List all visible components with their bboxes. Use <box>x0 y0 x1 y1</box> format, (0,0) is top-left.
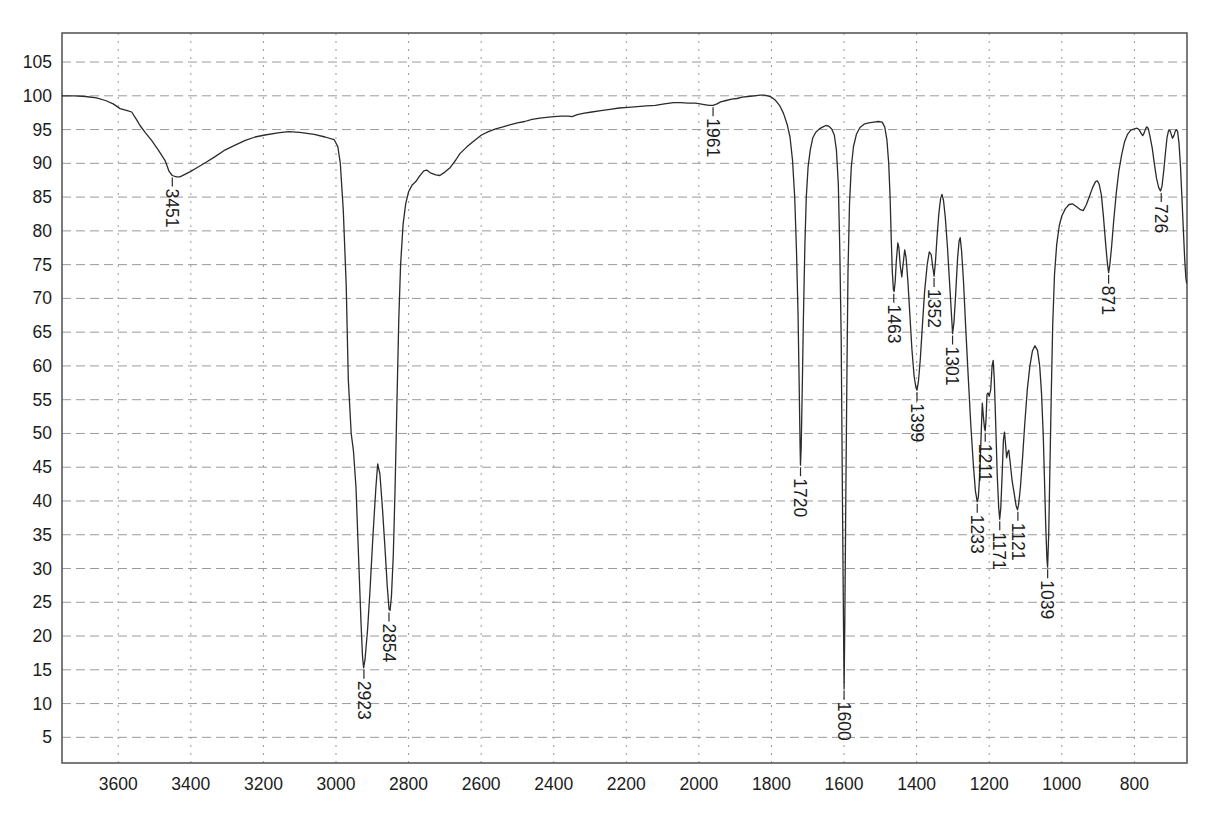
x-axis-label-2000: 2000 <box>679 774 718 794</box>
peak-label-1463: 1463 <box>884 305 904 344</box>
y-axis-label-45: 45 <box>33 457 52 477</box>
x-axis-label-1200: 1200 <box>970 774 1009 794</box>
x-axis-label-2800: 2800 <box>389 774 428 794</box>
x-axis-label-2200: 2200 <box>607 774 646 794</box>
scanned-ir-spectrum-page: 1051009590858075706560555045403530252015… <box>0 0 1218 823</box>
peak-label-1720: 1720 <box>790 478 810 517</box>
x-axis-label-3200: 3200 <box>244 774 283 794</box>
y-axis-label-70: 70 <box>33 288 53 308</box>
spectrum-curve <box>62 95 1187 689</box>
y-axis-label-85: 85 <box>33 187 52 207</box>
peak-label-1600: 1600 <box>834 702 854 741</box>
x-axis-label-2600: 2600 <box>462 774 501 794</box>
x-axis-label-1800: 1800 <box>752 774 791 794</box>
x-axis-label-2400: 2400 <box>534 774 573 794</box>
y-axis-label-65: 65 <box>33 322 52 342</box>
x-axis-label-1000: 1000 <box>1042 774 1081 794</box>
y-axis-label-80: 80 <box>33 221 53 241</box>
y-axis-label-95: 95 <box>33 120 52 140</box>
y-axis-label-5: 5 <box>42 727 52 747</box>
y-axis-label-10: 10 <box>33 694 53 714</box>
peak-label-726: 726 <box>1151 204 1171 233</box>
peak-label-1211: 1211 <box>975 444 995 482</box>
peak-label-1399: 1399 <box>907 403 927 442</box>
peak-label-1039: 1039 <box>1037 580 1057 619</box>
peak-label-2923: 2923 <box>354 681 374 720</box>
x-axis-label-3400: 3400 <box>171 774 210 794</box>
peak-label-1352: 1352 <box>924 289 944 328</box>
peak-label-871: 871 <box>1098 286 1118 315</box>
y-axis-label-75: 75 <box>33 255 52 275</box>
peak-label-1301: 1301 <box>942 347 962 386</box>
peak-label-1121: 1121 <box>1008 523 1028 561</box>
y-axis-label-15: 15 <box>33 660 52 680</box>
y-axis-label-55: 55 <box>33 390 52 410</box>
y-axis-label-50: 50 <box>33 423 53 443</box>
y-axis-label-90: 90 <box>33 153 53 173</box>
y-axis-label-35: 35 <box>33 525 52 545</box>
y-axis-label-30: 30 <box>33 559 53 579</box>
peak-label-3451: 3451 <box>162 189 182 228</box>
y-axis-label-20: 20 <box>33 626 53 646</box>
x-axis-label-3600: 3600 <box>99 774 138 794</box>
x-axis-label-1600: 1600 <box>825 774 864 794</box>
y-axis-label-105: 105 <box>23 52 52 72</box>
y-axis-label-60: 60 <box>33 356 53 376</box>
peak-label-1233: 1233 <box>967 515 987 554</box>
peak-label-1961: 1961 <box>703 118 723 157</box>
ir-spectrum-figure: 1051009590858075706560555045403530252015… <box>0 0 1218 823</box>
y-axis-label-40: 40 <box>33 491 53 511</box>
peak-label-2854: 2854 <box>379 623 399 662</box>
plot-border <box>62 33 1187 763</box>
y-axis-label-25: 25 <box>33 592 52 612</box>
peak-label-1171: 1171 <box>989 532 1009 570</box>
y-axis-label-100: 100 <box>23 86 52 106</box>
x-axis-label-800: 800 <box>1120 774 1149 794</box>
x-axis-label-3000: 3000 <box>317 774 356 794</box>
ir-spectrum-plot: 1051009590858075706560555045403530252015… <box>0 0 1218 823</box>
x-axis-label-1400: 1400 <box>897 774 936 794</box>
